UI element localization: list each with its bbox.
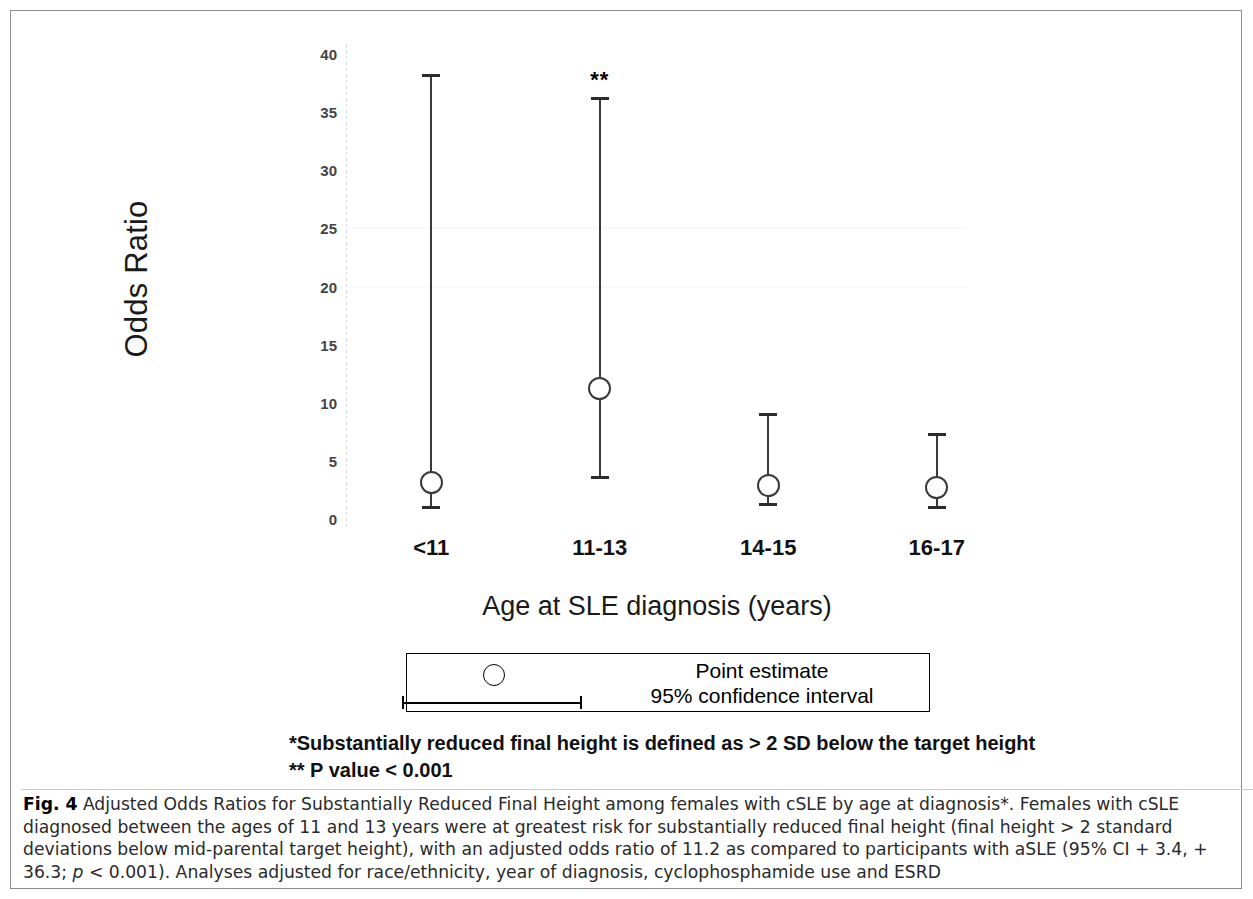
significance-annotation: ** [590, 67, 609, 93]
footnote-definition: *Substantially reduced final height is d… [289, 732, 1035, 755]
error-bar-cap-lower [928, 506, 946, 509]
error-bar-cap-lower [759, 503, 777, 506]
legend-ci-line [402, 702, 582, 704]
legend-confidence-interval-label: 95% confidence interval [597, 684, 927, 708]
caption-divider [21, 789, 1253, 790]
error-bar-cap-upper [422, 74, 440, 77]
error-bar-cap-upper [759, 413, 777, 416]
plot-area: Odds Ratio 0510152025303540 ** <1111-131… [11, 11, 1243, 631]
x-tick-label: 14-15 [698, 535, 838, 561]
x-tick-label: 16-17 [867, 535, 1007, 561]
legend-point-estimate-icon [483, 664, 505, 686]
legend-ci-cap-left [402, 696, 404, 709]
error-bar-stem [430, 74, 432, 509]
error-bar-cap-upper [591, 97, 609, 100]
caption-p-symbol: p [73, 862, 84, 882]
figure-caption: Fig. 4 Adjusted Odds Ratios for Substant… [23, 793, 1245, 883]
legend-ci-cap-right [580, 696, 582, 709]
error-bar-cap-upper [928, 433, 946, 436]
error-bar-cap-lower [591, 476, 609, 479]
x-tick-label: <11 [361, 535, 501, 561]
error-bar-cap-lower [422, 506, 440, 509]
caption-figure-number: Fig. 4 [23, 794, 77, 814]
legend-point-estimate-label: Point estimate [597, 659, 927, 683]
point-estimate-marker [420, 471, 443, 494]
x-tick-label: 11-13 [530, 535, 670, 561]
x-axis-label: Age at SLE diagnosis (years) [347, 591, 967, 622]
legend-confidence-interval-icon [402, 696, 582, 697]
figure-frame: Odds Ratio 0510152025303540 ** <1111-131… [10, 10, 1242, 889]
caption-body-end: < 0.001). Analyses adjusted for race/eth… [83, 862, 941, 882]
error-bar-stem [599, 97, 601, 479]
point-estimate-marker [757, 474, 780, 497]
point-estimate-marker [588, 377, 611, 400]
point-estimate-marker [925, 476, 948, 499]
footnote-pvalue: ** P value < 0.001 [289, 759, 453, 782]
legend-box: Point estimate 95% confidence interval [406, 653, 930, 712]
